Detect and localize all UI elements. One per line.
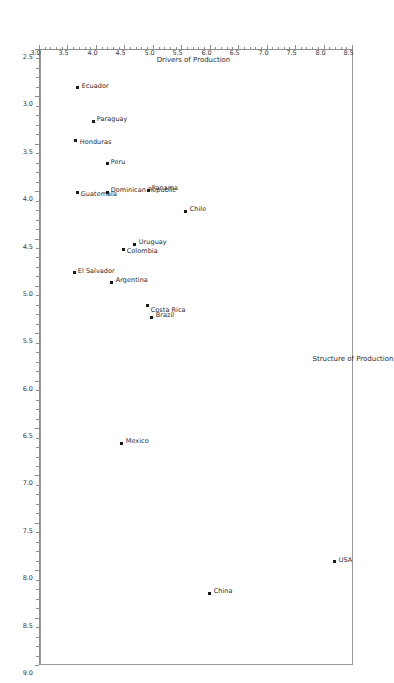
data-point-label: USA: [339, 557, 353, 564]
data-point-label: China: [213, 588, 232, 595]
y-tick-label: 3.0: [30, 50, 40, 57]
x-tick-minor: [37, 163, 40, 164]
x-tick-label: 8.5: [23, 623, 33, 630]
x-tick-minor: [37, 513, 40, 514]
data-point[interactable]: [73, 271, 76, 274]
x-tick-minor: [37, 305, 40, 306]
x-tick-major: [35, 239, 39, 240]
data-point-label: El Salvador: [78, 267, 115, 274]
x-tick-label: 8.0: [23, 575, 33, 582]
y-tick-label: 4.5: [116, 50, 126, 57]
data-point[interactable]: [120, 442, 123, 445]
data-point[interactable]: [146, 304, 149, 307]
x-tick-minor: [37, 153, 40, 154]
x-tick-minor: [37, 656, 40, 657]
x-tick-minor: [37, 447, 40, 448]
data-point[interactable]: [333, 560, 336, 563]
y-tick-minor: [284, 47, 285, 50]
y-tick-minor: [193, 47, 194, 50]
x-tick-major: [35, 665, 39, 666]
data-point[interactable]: [106, 162, 109, 165]
y-tick-minor: [107, 47, 108, 50]
y-tick-minor: [141, 47, 142, 50]
y-tick-label: 7.5: [287, 50, 297, 57]
y-tick-label: 6.5: [230, 50, 240, 57]
y-tick-minor: [102, 47, 103, 50]
plot-frame: USAChinaMexicoBrazilCosta RicaArgentinaU…: [40, 49, 353, 665]
y-tick-minor: [73, 47, 74, 50]
y-tick-minor: [335, 47, 336, 50]
x-tick-minor: [37, 106, 40, 107]
y-tick-minor: [227, 47, 228, 50]
y-tick-label: 8.5: [343, 50, 353, 57]
data-point[interactable]: [76, 86, 79, 89]
x-tick-minor: [37, 504, 40, 505]
data-point-label: Uruguay: [138, 239, 166, 246]
y-tick-minor: [56, 47, 57, 50]
x-tick-minor: [37, 627, 40, 628]
data-point[interactable]: [75, 139, 78, 142]
plot-area: USAChinaMexicoBrazilCosta RicaArgentinaU…: [41, 50, 352, 664]
x-tick-minor: [37, 58, 40, 59]
data-point[interactable]: [122, 248, 125, 251]
x-tick-minor: [37, 561, 40, 562]
x-tick-minor: [37, 551, 40, 552]
x-tick-major: [35, 96, 39, 97]
x-tick-minor: [37, 314, 40, 315]
x-tick-label: 4.5: [23, 244, 33, 251]
data-point-label: Colombia: [127, 248, 158, 255]
data-point[interactable]: [76, 191, 79, 194]
x-tick-minor: [37, 400, 40, 401]
data-point[interactable]: [92, 120, 95, 123]
x-tick-minor: [37, 646, 40, 647]
x-tick-minor: [37, 134, 40, 135]
y-tick-minor: [312, 47, 313, 50]
x-tick-minor: [37, 68, 40, 69]
x-tick-major: [35, 333, 39, 334]
y-tick-minor: [45, 47, 46, 50]
x-tick-minor: [37, 172, 40, 173]
x-tick-label: 4.0: [23, 196, 33, 203]
x-tick-minor: [37, 390, 40, 391]
x-tick-major: [35, 191, 39, 192]
y-tick-minor: [79, 47, 80, 50]
x-tick-label: 7.0: [23, 481, 33, 488]
x-tick-label: 6.0: [23, 386, 33, 393]
y-tick-minor: [244, 47, 245, 50]
y-tick-label: 3.5: [59, 50, 69, 57]
y-tick-minor: [136, 47, 137, 50]
y-tick-minor: [329, 47, 330, 50]
x-tick-major: [35, 618, 39, 619]
data-point-label: Costa Rica: [151, 307, 186, 314]
data-point[interactable]: [150, 316, 153, 319]
x-tick-minor: [37, 352, 40, 353]
x-tick-minor: [37, 276, 40, 277]
data-point[interactable]: [208, 592, 211, 595]
x-axis-line: [39, 49, 40, 665]
x-tick-label: 5.5: [23, 338, 33, 345]
x-tick-minor: [37, 257, 40, 258]
y-axis-title: Drivers of Production: [157, 57, 231, 64]
y-tick-minor: [50, 47, 51, 50]
x-tick-minor: [37, 115, 40, 116]
x-tick-minor: [37, 220, 40, 221]
x-tick-minor: [37, 229, 40, 230]
y-tick-minor: [187, 47, 188, 50]
x-tick-label: 3.5: [23, 149, 33, 156]
y-tick-minor: [130, 47, 131, 50]
x-tick-minor: [37, 485, 40, 486]
x-tick-minor: [37, 182, 40, 183]
x-tick-major: [35, 144, 39, 145]
y-tick-minor: [85, 47, 86, 50]
x-tick-minor: [37, 637, 40, 638]
data-point[interactable]: [184, 210, 187, 213]
y-tick-minor: [341, 47, 342, 50]
y-tick-label: 4.0: [87, 50, 97, 57]
y-tick-minor: [272, 47, 273, 50]
data-point[interactable]: [110, 281, 113, 284]
data-point[interactable]: [133, 243, 136, 246]
x-tick-minor: [37, 77, 40, 78]
x-tick-label: 6.5: [23, 433, 33, 440]
